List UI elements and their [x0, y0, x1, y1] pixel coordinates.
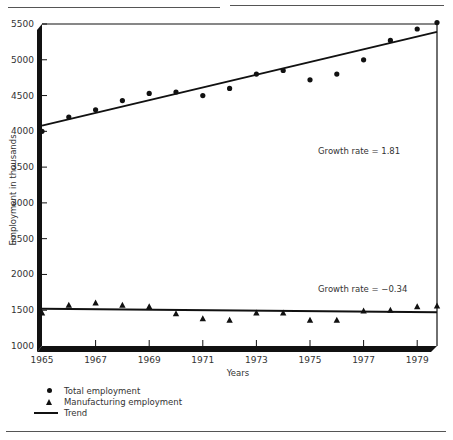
manufacturing-employment-point: [387, 307, 393, 313]
circle-marker-icon: [47, 388, 52, 393]
manufacturing-employment-point: [334, 317, 340, 323]
legend-label-trend: Trend: [64, 408, 87, 418]
x-axis-ticks: 19651967196919711973197519771979: [31, 340, 429, 365]
total-employment-point: [307, 77, 312, 82]
manufacturing-employment-point: [360, 307, 366, 313]
x-tick-label: 1967: [84, 355, 107, 365]
manufacturing-employment-point: [173, 310, 179, 316]
manufacturing-employment-point: [92, 300, 98, 306]
trend-line: [42, 32, 437, 126]
total-employment-point: [334, 71, 339, 76]
x-tick-label: 1971: [191, 355, 214, 365]
legend-label-total: Total employment: [64, 386, 140, 396]
total-employment-point: [415, 26, 420, 31]
x-axis-title: Years: [226, 368, 250, 378]
total-employment-point: [254, 71, 259, 76]
employment-chart: 1000150020002500300035004000450050005500…: [0, 0, 453, 440]
manufacturing-employment-point: [200, 315, 206, 321]
x-tick-label: 1975: [299, 355, 322, 365]
x-tick-label: 1965: [31, 355, 54, 365]
x-tick-label: 1979: [406, 355, 429, 365]
legend-item-total: Total employment: [34, 385, 182, 396]
legend: Total employment Manufacturing employmen…: [34, 385, 182, 418]
total-employment-point: [147, 91, 152, 96]
data-points: [39, 20, 440, 323]
manufacturing-employment-point: [434, 302, 440, 308]
trend-line-icon: [34, 412, 58, 414]
trend-line: [42, 309, 437, 313]
y-tick-label: 2000: [11, 269, 34, 279]
manufacturing-employment-point: [146, 303, 152, 309]
y-axis-title: Employment in thousands: [8, 134, 18, 246]
manufacturing-employment-point: [66, 302, 72, 308]
x-tick-label: 1977: [352, 355, 375, 365]
triangle-marker-icon: [46, 399, 52, 405]
total-employment-point: [227, 86, 232, 91]
total-employment-point: [361, 57, 366, 62]
manufacturing-employment-point: [307, 317, 313, 323]
legend-label-manufacturing: Manufacturing employment: [64, 397, 182, 407]
y-tick-label: 1500: [11, 305, 34, 315]
total-employment-point: [39, 129, 44, 134]
total-employment-point: [388, 38, 393, 43]
trend-lines: [42, 32, 437, 312]
total-employment-point: [434, 20, 439, 25]
manufacturing-growth-annotation: Growth rate = −0.34: [318, 284, 407, 294]
legend-item-manufacturing: Manufacturing employment: [34, 396, 182, 407]
y-tick-label: 1000: [11, 341, 34, 351]
y-tick-label: 5500: [11, 19, 34, 29]
total-employment-point: [120, 98, 125, 103]
total-employment-point: [173, 89, 178, 94]
x-tick-label: 1973: [245, 355, 268, 365]
y-tick-label: 4500: [11, 91, 34, 101]
manufacturing-employment-point: [414, 303, 420, 309]
total-employment-point: [66, 114, 71, 119]
x-tick-label: 1969: [138, 355, 161, 365]
manufacturing-employment-point: [226, 317, 232, 323]
total-employment-point: [93, 107, 98, 112]
bottom-rule: [6, 431, 446, 432]
total-growth-annotation: Growth rate = 1.81: [318, 146, 400, 156]
y-tick-label: 5000: [11, 55, 34, 65]
manufacturing-employment-point: [119, 302, 125, 308]
total-employment-point: [281, 68, 286, 73]
total-employment-point: [200, 93, 205, 98]
legend-item-trend: Trend: [34, 407, 182, 418]
